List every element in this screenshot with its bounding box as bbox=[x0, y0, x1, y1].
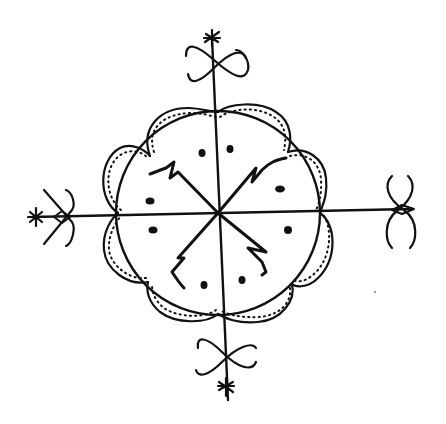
left-ornament bbox=[28, 190, 74, 246]
stray-mark bbox=[374, 291, 376, 293]
veve-symbol bbox=[0, 0, 446, 424]
veve-drawing bbox=[0, 0, 446, 424]
top-ornament bbox=[186, 30, 248, 81]
right-ornament bbox=[387, 176, 416, 248]
cross-axes bbox=[32, 38, 410, 400]
